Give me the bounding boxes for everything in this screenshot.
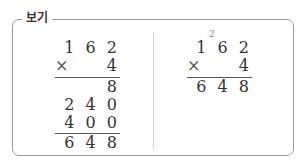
multiplicand: 1 6 2: [64, 39, 120, 57]
multiply-sign: ×: [187, 57, 200, 75]
divider: [153, 33, 154, 148]
left-calculation: 1 6 2 × 4 8 2 4 0 4 0 0 6 4 8: [55, 39, 120, 139]
multiplier: 4: [107, 57, 120, 75]
multiply-sign: ×: [55, 57, 68, 75]
multiplier: 4: [239, 57, 252, 75]
right-calculation: 2 1 6 2 × 4 6 4 8: [187, 39, 252, 99]
partial-3: 4 0 0: [64, 114, 120, 132]
multiplicand: 1 6 2: [196, 39, 252, 57]
partial-1: 8: [107, 78, 120, 96]
partial-2: 2 4 0: [64, 96, 120, 114]
result: 6 4 8: [64, 134, 120, 152]
example-label: 보기: [22, 11, 52, 25]
result: 6 4 8: [196, 78, 252, 96]
